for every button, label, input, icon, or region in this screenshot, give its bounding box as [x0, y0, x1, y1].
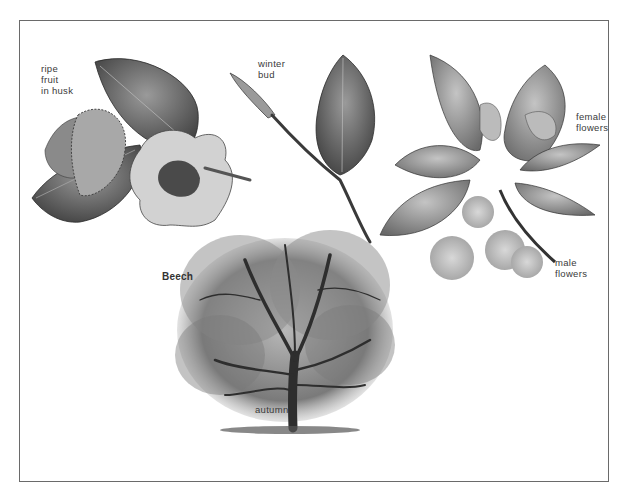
label-ripe-fruit: ripe fruit in husk [41, 63, 73, 96]
label-male-flowers: male flowers [555, 257, 587, 279]
flowers-illustration [380, 55, 600, 280]
label-autumn: autumn [255, 404, 289, 415]
label-female-flowers: female flowers [576, 111, 608, 133]
winter-bud-illustration [230, 55, 375, 242]
label-winter-bud: winter bud [258, 58, 285, 80]
plate-title: Beech [162, 271, 193, 282]
illustration-canvas [0, 0, 627, 503]
